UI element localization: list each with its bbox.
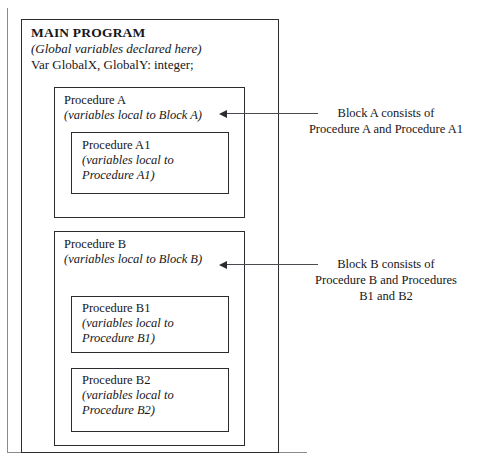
procedure-a-heading: Procedure A — [64, 93, 126, 108]
annotation-block-b: Block B consists of Procedure B and Proc… — [296, 257, 476, 304]
procedure-b2-subtitle: (variables local to Procedure B2) — [82, 388, 174, 418]
procedure-b-heading: Procedure B — [64, 237, 126, 252]
arrow-left-icon-block-b — [219, 261, 227, 269]
diagram-canvas: MAIN PROGRAM (Global variables declared … — [0, 0, 483, 470]
arrow-left-icon-block-a — [219, 110, 227, 118]
procedure-b2-heading: Procedure B2 — [82, 373, 150, 388]
procedure-b1-heading: Procedure B1 — [82, 301, 150, 316]
procedure-b-subtitle: (variables local to Block B) — [64, 252, 202, 267]
procedure-b1-subtitle: (variables local to Procedure B1) — [82, 316, 174, 346]
main-program-heading: MAIN PROGRAM — [31, 25, 146, 41]
procedure-a1-heading: Procedure A1 — [82, 138, 150, 153]
annotation-block-a: Block A consists of Procedure A and Proc… — [296, 106, 476, 138]
main-program-subtitle: (Global variables declared here) — [31, 41, 202, 56]
main-program-declaration: Var GlobalX, GlobalY: integer; — [31, 57, 194, 72]
page-frame-left-rule — [7, 8, 8, 453]
procedure-a-subtitle: (variables local to Block A) — [64, 108, 202, 123]
procedure-a1-subtitle: (variables local to Procedure A1) — [82, 153, 174, 183]
